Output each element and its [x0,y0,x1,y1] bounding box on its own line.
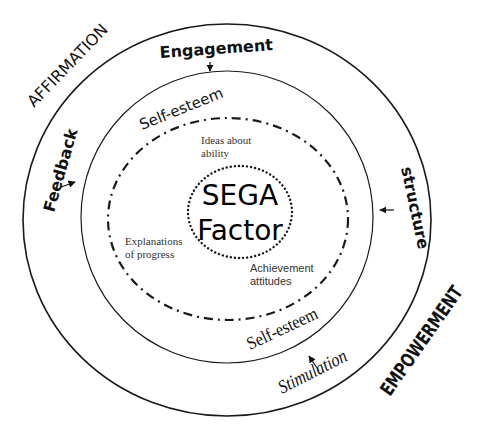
note-ideas-line1: Ideas about [201,134,251,146]
note-achievement-line2: attitudes [250,275,292,287]
label-self-esteem-top: Self-esteem [137,84,226,134]
note-explanations-line1: Explanations [125,235,182,247]
center-title-line1: SEGA [202,179,278,212]
label-structure: structure [397,165,433,251]
note-explanations-line2: of progress [125,248,174,260]
note-achievement-line1: Achievement [250,262,314,274]
label-engagement: Engagement [159,35,274,62]
note-ideas-line2: ability [201,147,230,159]
center-title-line2: Factor [197,214,283,247]
label-feedback: Feedback [40,126,82,214]
label-self-esteem-bottom: Self-esteem [243,303,321,354]
sega-factor-diagram: SEGA Factor AFFIRMATION EMPOWERMENT Enga… [0,0,477,442]
label-stimulation: Stimulation [274,345,350,398]
